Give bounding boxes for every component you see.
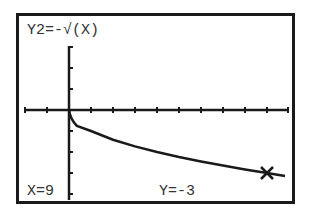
trace-y-value: Y=-3 xyxy=(159,183,195,200)
trace-x-value: X=9 xyxy=(27,183,54,200)
equation-label: Y2=-√(X) xyxy=(27,22,99,39)
graph-plot xyxy=(19,16,292,201)
calculator-graph-screen: Y2=-√(X) X=9 Y=-3 xyxy=(16,13,295,204)
function-curve xyxy=(69,110,285,176)
